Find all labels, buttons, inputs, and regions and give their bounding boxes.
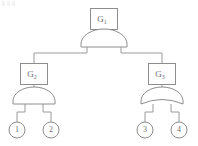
gate-g2-label-sub: 2	[34, 74, 37, 80]
wire-g3-to-event4	[171, 104, 179, 122]
gate-g1-label-sub: 1	[104, 19, 107, 25]
wire-g3-to-event3	[145, 104, 153, 122]
gate-g2-and-shape	[13, 87, 55, 104]
wire-g2-to-event2	[43, 104, 51, 122]
gate-g3-or-shape	[141, 87, 183, 104]
gate-g2[interactable]: G2	[13, 64, 55, 105]
wire-g2-to-event1	[17, 104, 25, 122]
basic-event-3[interactable]: 3	[137, 122, 153, 138]
gate-g1-and-shape	[81, 29, 127, 47]
basic-event-group: 1 2 3 4	[9, 122, 187, 138]
gate-g1[interactable]: G1	[81, 9, 127, 48]
basic-event-3-label: 3	[143, 125, 147, 134]
basic-event-1[interactable]: 1	[9, 122, 25, 138]
basic-event-2-label: 2	[49, 125, 53, 134]
basic-event-4-label: 4	[177, 125, 181, 134]
basic-event-1-label: 1	[15, 125, 19, 134]
basic-event-4[interactable]: 4	[171, 122, 187, 138]
fault-tree-diagram: G1 G2 G3 1	[0, 0, 198, 146]
fault-tree-canvas: G1 G2 G3 1	[0, 0, 198, 146]
gate-g3[interactable]: G3	[141, 64, 183, 105]
basic-event-2[interactable]: 2	[43, 122, 59, 138]
gate-g3-label-sub: 3	[162, 74, 165, 80]
